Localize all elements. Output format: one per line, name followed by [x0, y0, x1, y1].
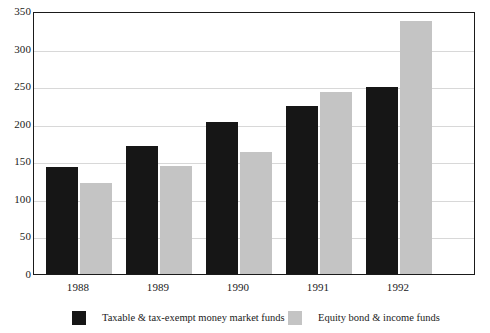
x-tick-label: 1990	[198, 281, 278, 293]
bar-group	[280, 13, 360, 274]
bar-chart: 050100150200250300350 198819891990199119…	[0, 0, 490, 333]
y-tick-label: 250	[1, 81, 31, 92]
bar	[240, 152, 272, 274]
plot-area	[33, 12, 475, 275]
clipped-title-strip	[0, 0, 490, 4]
legend-item[interactable]: Taxable & tax-exempt money market funds	[72, 310, 285, 326]
bar	[206, 122, 238, 274]
y-tick-label: 100	[1, 194, 31, 205]
bar-group	[200, 13, 280, 274]
y-tick-label: 0	[1, 269, 31, 280]
bar	[160, 166, 192, 274]
bar	[46, 167, 78, 274]
legend-label: Equity bond & income funds	[318, 312, 440, 324]
bar-group	[40, 13, 120, 274]
x-tick-label: 1992	[358, 281, 438, 293]
bar-group	[360, 13, 440, 274]
bar	[320, 92, 352, 274]
chart-legend: Taxable & tax-exempt money market fundsE…	[0, 310, 490, 333]
bar	[80, 183, 112, 274]
x-tick-label: 1991	[278, 281, 358, 293]
legend-label: Taxable & tax-exempt money market funds	[102, 312, 285, 324]
y-axis: 050100150200250300350	[0, 0, 31, 333]
x-tick-label: 1988	[38, 281, 118, 293]
bar	[126, 146, 158, 274]
y-tick-label: 300	[1, 44, 31, 55]
y-tick-label: 350	[1, 6, 31, 17]
x-tick-label: 1989	[118, 281, 198, 293]
legend-swatch-icon	[288, 311, 302, 325]
bar	[366, 87, 398, 274]
bar	[400, 21, 432, 274]
y-tick-label: 150	[1, 156, 31, 167]
y-tick-label: 50	[1, 231, 31, 242]
legend-swatch-icon	[72, 311, 86, 325]
y-tick-label: 200	[1, 119, 31, 130]
bar	[286, 106, 318, 274]
legend-item[interactable]: Equity bond & income funds	[288, 310, 440, 326]
bar-group	[120, 13, 200, 274]
